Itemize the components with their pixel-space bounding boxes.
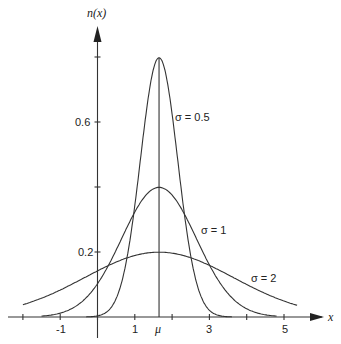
label-sigma-2: σ = 2 xyxy=(251,272,276,284)
x-tick-label-5: 5 xyxy=(282,323,288,335)
normal-distribution-chart: n(x) x -1 1 μ 3 5 0.6 0.2 σ = 0.5 σ = 1 … xyxy=(0,0,341,344)
x-tick-label-3: 3 xyxy=(206,323,212,335)
y-axis-arrow-icon xyxy=(94,26,102,42)
x-axis-arrow-icon xyxy=(310,313,324,321)
y-tick-label-0-2: 0.2 xyxy=(78,246,93,258)
label-sigma-1: σ = 1 xyxy=(201,224,226,236)
y-tick-label-0-6: 0.6 xyxy=(75,116,90,128)
x-tick-label-neg1: -1 xyxy=(56,323,66,335)
x-axis-label: x xyxy=(327,310,334,324)
y-axis-label: n(x) xyxy=(87,6,106,20)
x-tick-label-1: 1 xyxy=(132,323,138,335)
x-tick-label-mu: μ xyxy=(154,322,161,336)
label-sigma-0-5: σ = 0.5 xyxy=(175,111,210,123)
